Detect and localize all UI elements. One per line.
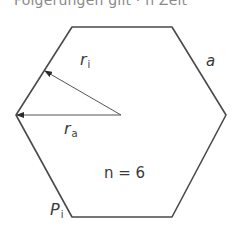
label-side-length: a (206, 54, 215, 69)
label-inner-radius: ri (80, 52, 90, 70)
hexagon-outline (16, 27, 226, 217)
label-vertex-point: Pi (50, 202, 63, 220)
hexagon-diagram (0, 0, 246, 229)
inner-radius-arrow (45, 71, 121, 115)
label-outer-radius: ra (64, 121, 78, 139)
label-vertex-count: n = 6 (104, 166, 145, 181)
